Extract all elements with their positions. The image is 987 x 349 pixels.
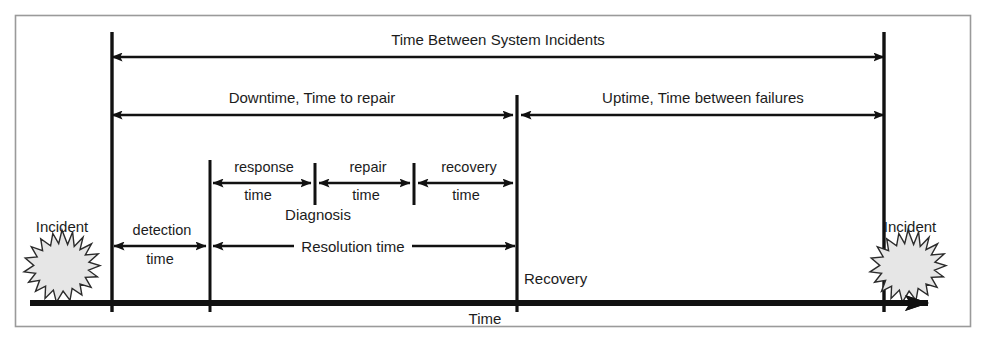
label-time-axis: Time xyxy=(469,310,502,327)
label-repair-time: time xyxy=(352,187,379,203)
label-repair: repair xyxy=(349,159,386,175)
label-diagnosis: Diagnosis xyxy=(285,206,351,223)
label-response-time: time xyxy=(244,187,271,203)
label-recovery: recovery xyxy=(441,159,497,175)
label-resolution-time: Resolution time xyxy=(301,238,404,255)
diagram-canvas: Time Between System Incidents Downtime, … xyxy=(0,0,987,349)
label-recovery-point: Recovery xyxy=(524,270,588,287)
label-detection: detection xyxy=(133,222,192,238)
label-incident-right: Incident xyxy=(884,218,937,235)
label-incident-left: Incident xyxy=(36,218,89,235)
label-downtime: Downtime, Time to repair xyxy=(229,89,396,106)
label-response: response xyxy=(234,159,294,175)
incident-timeline-diagram: Time Between System Incidents Downtime, … xyxy=(0,0,987,349)
label-detection-time: time xyxy=(146,251,173,267)
label-recovery-time: time xyxy=(452,187,479,203)
label-time-between-system-incidents: Time Between System Incidents xyxy=(391,31,605,48)
label-uptime: Uptime, Time between failures xyxy=(602,89,804,106)
